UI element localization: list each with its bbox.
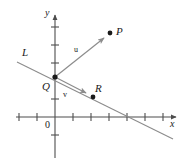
point-R-dot <box>91 95 96 100</box>
vector-v-label: v <box>63 91 67 99</box>
x-axis-label: x <box>170 119 174 129</box>
vector-v <box>55 77 86 93</box>
line-L <box>17 62 173 139</box>
y-axis <box>51 15 59 158</box>
vector-diagram-figure: y x 0 L Q P R u v <box>0 0 186 165</box>
point-P-label: P <box>116 26 123 37</box>
point-P-dot <box>108 31 113 36</box>
vector-u <box>55 38 104 77</box>
point-Q-dot <box>52 74 57 79</box>
origin-label: 0 <box>45 120 50 130</box>
line-L-label: L <box>22 47 28 58</box>
point-Q-label: Q <box>42 81 50 92</box>
vector-u-label: u <box>74 46 78 54</box>
y-axis-label: y <box>45 8 49 18</box>
x-axis <box>16 113 176 121</box>
point-R-label: R <box>95 83 102 94</box>
diagram-canvas <box>0 0 186 165</box>
